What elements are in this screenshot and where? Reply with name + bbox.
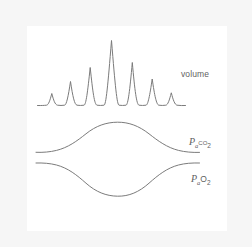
volume-trace — [38, 41, 186, 106]
label-pao2: PaO2 — [191, 174, 211, 186]
label-paco2: Paco2 — [189, 137, 211, 149]
pao2-number-2: 2 — [207, 179, 211, 186]
pao2-gas-o: O — [200, 174, 207, 184]
paco2-trace — [36, 122, 200, 152]
figure-root: volume Paco2 PaO2 — [0, 0, 252, 247]
paco2-gas-co: co — [198, 137, 207, 147]
pao2-trace — [36, 163, 200, 196]
paco2-number-2: 2 — [207, 142, 211, 149]
waveform-plot — [0, 0, 252, 247]
label-volume: volume — [181, 70, 209, 79]
